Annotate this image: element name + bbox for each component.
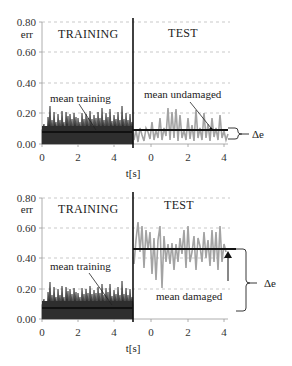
bottom-ylabel: err	[21, 203, 34, 215]
bottom-ytick-4: 0.00	[17, 313, 37, 325]
bottom-ytick-1: 0.60	[17, 222, 37, 234]
top-training-title: TRAINING	[58, 27, 118, 41]
top-ytick-4: 0.00	[17, 138, 37, 150]
bottom-train-xtick-0: 0	[39, 326, 45, 338]
bottom-test-xtick-2: 4	[221, 326, 227, 338]
bottom-training-band	[42, 301, 133, 319]
top-ytick-3: 0.20	[17, 107, 37, 119]
chart-canvas: 0.80 0.60 0.40 0.20 0.00 err mean traini…	[0, 0, 292, 366]
bottom-delta-label: Δe	[264, 277, 276, 289]
top-mean-undamaged-label: mean undamaged	[144, 88, 222, 100]
top-ytick-2: 0.40	[17, 77, 37, 89]
top-delta-bracket	[228, 128, 242, 139]
top-test-xtick-2: 4	[221, 151, 227, 163]
top-mean-training-label: mean training	[50, 92, 111, 104]
top-train-xtick-2: 4	[111, 151, 117, 163]
top-test-title: TEST	[168, 26, 198, 40]
bottom-mean-training-label: mean training	[50, 260, 111, 272]
top-chart: 0.80 0.60 0.40 0.20 0.00 err mean traini…	[17, 16, 264, 179]
top-xlabel: t[s]	[126, 167, 141, 179]
bottom-train-xtick-2: 4	[111, 326, 117, 338]
bottom-test-xtick-0: 0	[148, 326, 154, 338]
bottom-training-title: TRAINING	[58, 202, 118, 216]
top-training-band	[42, 126, 133, 144]
bottom-chart: 0.80 0.60 0.40 0.20 0.00 err mean traini…	[17, 192, 276, 354]
bottom-delta-bracket	[236, 249, 250, 311]
bottom-test-xtick-1: 2	[185, 326, 191, 338]
bottom-test-signal	[134, 222, 226, 288]
top-train-xtick-1: 2	[75, 151, 81, 163]
bottom-ytick-3: 0.20	[17, 283, 37, 295]
top-ylabel: err	[21, 28, 34, 40]
bottom-test-title: TEST	[164, 198, 194, 212]
top-train-xtick-0: 0	[39, 151, 45, 163]
top-ytick-1: 0.60	[17, 46, 37, 58]
top-ytick-0: 0.80	[17, 16, 37, 28]
bottom-train-xtick-1: 2	[75, 326, 81, 338]
top-delta-label: Δe	[252, 128, 264, 140]
bottom-ytick-2: 0.40	[17, 252, 37, 264]
top-test-xtick-1: 2	[185, 151, 191, 163]
bottom-mean-damaged-label: mean damaged	[156, 290, 223, 302]
bottom-xlabel: t[s]	[126, 342, 141, 354]
top-mean-undamaged-arrow	[190, 102, 211, 128]
top-test-xtick-0: 0	[148, 151, 154, 163]
